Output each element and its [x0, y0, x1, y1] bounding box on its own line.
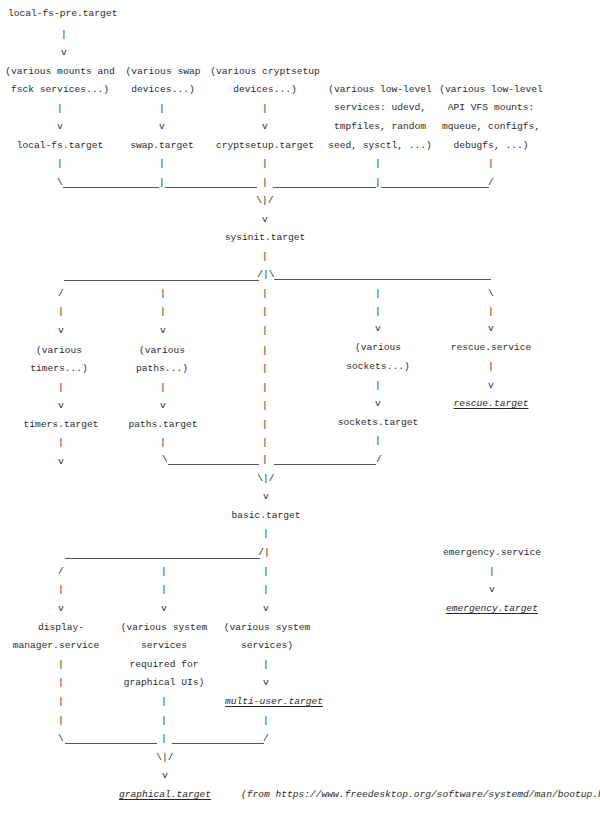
node-emergency-service: emergency.service — [443, 547, 541, 559]
source-note: (from https://www.freedesktop.org/softwa… — [241, 789, 600, 800]
edge-pipe: | — [58, 696, 64, 708]
edge-pipe: | — [262, 400, 268, 412]
edge-pipe: | — [58, 382, 64, 394]
edge-pipe: | — [262, 419, 268, 431]
edge-pipe: | — [61, 29, 67, 41]
edge-pipe: | — [160, 306, 166, 318]
edge-merge: \|/ — [256, 195, 273, 207]
edge-pipe: | — [263, 584, 269, 596]
node-mounts: fsck services...) — [11, 84, 109, 96]
edge-arrow: v — [58, 325, 64, 337]
edge-pipe: | — [58, 584, 64, 596]
node-sockets: sockets...) — [346, 361, 409, 373]
edge-pipe: | — [160, 288, 166, 300]
edge-pipe: | — [488, 306, 494, 318]
edge-pipe: | — [375, 158, 381, 170]
edge-slash: / — [263, 733, 269, 745]
edge-merge: \|/ — [257, 473, 274, 485]
node-timers: (various — [36, 345, 82, 357]
node-paths: (various — [139, 345, 185, 357]
node-graphical-services: (various system — [121, 622, 207, 634]
edge-pipe: | — [262, 382, 268, 394]
edge-arrow: v — [262, 214, 268, 226]
node-graphical-services: services — [141, 640, 187, 652]
edge-arrow: v — [58, 456, 64, 468]
edge-bslash: \ — [488, 288, 494, 300]
edge-line — [65, 743, 157, 744]
edge-pipe: | — [262, 325, 268, 337]
node-mounts: (various mounts and — [5, 66, 114, 78]
edge-pipe: | — [262, 251, 268, 263]
edge-slash: / — [58, 566, 64, 578]
edge-line — [274, 464, 376, 465]
edge-arrow: v — [57, 121, 63, 133]
node-display-manager: manager.service — [13, 640, 99, 652]
node-multi-user-target: multi-user.target — [225, 696, 323, 708]
edge-merge: \|/ — [156, 752, 173, 764]
edge-pipe: | — [161, 733, 167, 745]
edge-bslash: \ — [58, 733, 64, 745]
node-cryptsetup-devices: devices...) — [233, 84, 296, 96]
edge-pipe: | — [58, 677, 64, 689]
node-timers-target: timers.target — [24, 419, 99, 431]
edge-pipe: | — [375, 380, 381, 392]
node-paths: paths...) — [136, 363, 188, 375]
edge-pipe: | — [160, 437, 166, 449]
edge-pipe: | — [488, 361, 494, 373]
node-graphical-target: graphical.target — [119, 789, 211, 801]
node-swap-devices: devices...) — [131, 84, 194, 96]
edge-pipe: | — [262, 345, 268, 357]
edge-arrow: v — [160, 325, 166, 337]
edge-pipe: | — [58, 659, 64, 671]
node-system-services: (various system — [224, 622, 310, 634]
edge-line — [168, 464, 259, 465]
edge-pipe: | — [263, 528, 269, 540]
node-api-vfs-mounts: mqueue, configfs, — [442, 121, 540, 133]
edge-pipe: | — [262, 158, 268, 170]
edge-pipe: | — [375, 435, 381, 447]
edge-split: /| — [258, 547, 270, 559]
edge-arrow: v — [375, 398, 381, 410]
edge-pipe: | — [161, 696, 167, 708]
edge-slash: / — [58, 288, 64, 300]
edge-pipe: | — [262, 306, 268, 318]
node-emergency-target: emergency.target — [446, 603, 538, 615]
edge-arrow: v — [61, 47, 67, 59]
edge-arrow: v — [263, 603, 269, 615]
edge-pipe: | — [489, 566, 495, 578]
edge-slash: / — [488, 177, 494, 189]
node-local-fs-target: local-fs.target — [17, 140, 103, 152]
node-cryptsetup-target: cryptsetup.target — [216, 140, 314, 152]
edge-split: /|\ — [257, 269, 274, 281]
edge-pipe: | — [58, 437, 64, 449]
edge-pipe: | — [263, 715, 269, 727]
edge-arrow: v — [489, 584, 495, 596]
edge-arrow: v — [162, 770, 168, 782]
node-sockets: (various — [355, 342, 401, 354]
edge-pipe: | — [263, 566, 269, 578]
edge-pipe: | — [161, 584, 167, 596]
node-rescue-service: rescue.service — [451, 342, 532, 354]
edge-pipe: | — [262, 103, 268, 115]
node-sockets-target: sockets.target — [338, 417, 419, 429]
node-sysinit-target: sysinit.target — [225, 232, 306, 244]
node-rescue-target: rescue.target — [454, 398, 529, 410]
node-api-vfs-mounts: API VFS mounts: — [448, 102, 534, 114]
edge-arrow: v — [375, 323, 381, 335]
edge-line — [63, 187, 159, 188]
edge-pipe: | — [159, 103, 165, 115]
edge-arrow: v — [262, 121, 268, 133]
edge-pipe: | — [262, 177, 268, 189]
edge-line — [274, 279, 491, 280]
edge-pipe: | — [262, 363, 268, 375]
edge-arrow: v — [263, 491, 269, 503]
node-graphical-services: graphical UIs) — [124, 677, 205, 689]
edge-slash: / — [376, 454, 382, 466]
node-system-services: services) — [241, 640, 293, 652]
node-low-level-services: seed, sysctl, ...) — [328, 140, 432, 152]
edge-pipe: | — [262, 454, 268, 466]
edge-arrow: v — [488, 323, 494, 335]
node-display-manager: display- — [38, 622, 84, 634]
node-local-fs-pre-target: local-fs-pre.target — [8, 8, 117, 20]
edge-pipe: | — [262, 437, 268, 449]
